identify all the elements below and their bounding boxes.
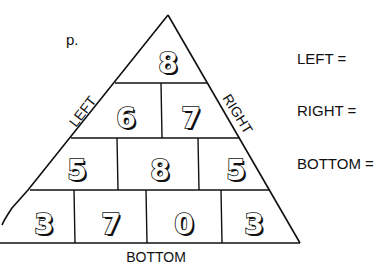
cell: 3 [34,208,53,241]
cell: 7 [181,102,200,135]
row-4: 3 3 7 7 0 0 3 3 [34,208,265,243]
cell: 3 [244,208,263,241]
cell: 8 [150,154,169,187]
bottom-answer-label: BOTTOM = [297,155,374,172]
cell: 8 [158,47,177,80]
left-side-label: LEFT [66,93,100,130]
left-answer-label: LEFT = [297,50,346,67]
number-pyramid: 8 8 6 6 7 7 5 5 8 8 5 5 3 3 7 7 0 0 3 3 … [0,0,392,268]
cell: 5 [226,154,245,187]
row-3: 5 5 8 8 5 5 [67,154,247,189]
cell: 7 [101,208,120,241]
cell: 6 [116,102,135,135]
cell: 0 [174,208,193,241]
row-1: 8 8 [158,47,179,82]
bottom-side-label: BOTTOM [126,249,186,265]
row-2: 6 6 7 7 [116,102,202,137]
cell: 5 [67,154,86,187]
right-answer-label: RIGHT = [297,102,356,119]
